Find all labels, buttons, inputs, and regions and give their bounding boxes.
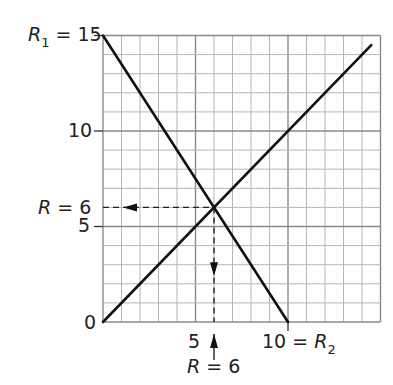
- y-tick-10: 10: [68, 121, 92, 140]
- y-tick-5: 5: [78, 216, 90, 235]
- line-r2: [103, 45, 371, 322]
- arrow-down-icon: [210, 262, 218, 276]
- arrow-left-icon: [123, 203, 137, 211]
- y-tick-0: 0: [84, 313, 96, 332]
- x-annotation-r-6: R = 6: [187, 357, 240, 376]
- arrow-up-icon: [210, 334, 218, 348]
- y-axis-label-r1: R1 = 15: [28, 25, 102, 44]
- y-annotation-r-6: R = 6: [38, 198, 91, 217]
- x-tick-10-r2: 10 = R2: [262, 332, 336, 351]
- chart-plot: [0, 0, 393, 385]
- x-tick-5: 5: [188, 332, 200, 351]
